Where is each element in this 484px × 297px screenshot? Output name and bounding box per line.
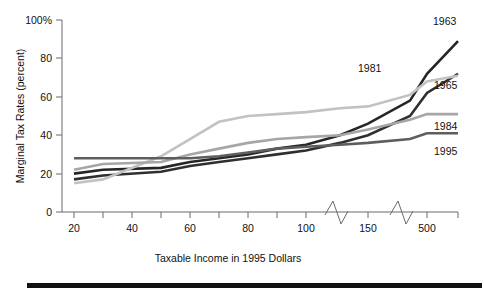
series-label-1995: 1995 bbox=[434, 145, 458, 157]
series-label-1965: 1965 bbox=[434, 79, 458, 91]
series-label-group: 19631981196519841995 bbox=[358, 15, 458, 157]
footer-rule bbox=[27, 283, 482, 288]
y-tick-label-60: 60 bbox=[40, 91, 52, 103]
y-axis-title: Marginal Tax Rates (percent) bbox=[14, 49, 26, 184]
x-tick-label-150: 150 bbox=[359, 222, 377, 234]
series-label-1984: 1984 bbox=[434, 120, 458, 132]
y-tick-label-40: 40 bbox=[40, 129, 52, 141]
marginal-tax-rates-line-chart: 100% 80 60 40 20 0 Marginal Tax Rates (p… bbox=[0, 0, 484, 297]
x-axis-title: Taxable Income in 1995 Dollars bbox=[155, 252, 302, 264]
y-tick-label-20: 20 bbox=[40, 168, 52, 180]
series-label-1963: 1963 bbox=[433, 15, 457, 27]
x-tick-label-60: 60 bbox=[184, 222, 196, 234]
chart-figure: 100% 80 60 40 20 0 Marginal Tax Rates (p… bbox=[0, 0, 484, 297]
x-tick-label-500: 500 bbox=[418, 222, 436, 234]
series-line-1963 bbox=[74, 41, 458, 173]
series-line-1981 bbox=[74, 76, 458, 184]
x-axis: 20 40 60 80 100 150 500 Taxable Income i… bbox=[62, 201, 458, 264]
series-group bbox=[74, 41, 458, 183]
series-label-1981: 1981 bbox=[358, 62, 382, 74]
y-tick-label-0: 0 bbox=[46, 206, 52, 218]
y-tick-label-100: 100% bbox=[25, 14, 52, 26]
x-tick-label-40: 40 bbox=[126, 222, 138, 234]
x-tick-label-20: 20 bbox=[68, 222, 80, 234]
series-line-1984 bbox=[74, 114, 458, 170]
x-tick-label-80: 80 bbox=[242, 222, 254, 234]
y-tick-label-80: 80 bbox=[40, 52, 52, 64]
x-tick-label-100: 100 bbox=[297, 222, 315, 234]
series-line-1995 bbox=[74, 133, 458, 158]
y-axis: 100% 80 60 40 20 0 Marginal Tax Rates (p… bbox=[14, 14, 62, 218]
